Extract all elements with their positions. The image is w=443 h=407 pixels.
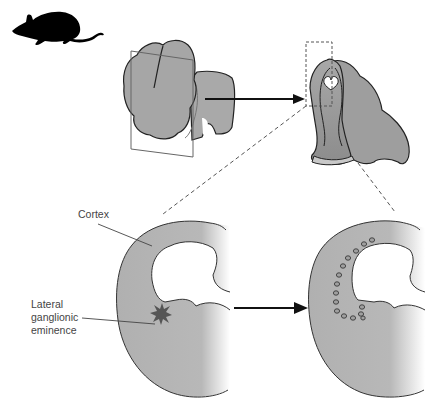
diagram-canvas [0, 0, 443, 407]
hemisphere-after-illustration [309, 221, 426, 397]
lge-label-line1: Lateral [31, 298, 63, 311]
hemisphere-before-illustration [117, 221, 230, 397]
cortex-label: Cortex [78, 208, 109, 221]
coronal-section-illustration [306, 42, 409, 165]
arrow-right-icon-2 [234, 302, 308, 314]
mouse-silhouette-icon [12, 12, 104, 45]
lge-label-line2: ganglionic [31, 311, 78, 324]
lge-label-line3: eminence [31, 324, 77, 337]
